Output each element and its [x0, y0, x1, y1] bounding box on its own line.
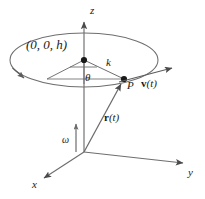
center-point-dot — [81, 57, 87, 63]
z-axis-label: z — [90, 5, 94, 16]
y-axis-line — [84, 152, 183, 163]
reference-radius-line — [47, 60, 84, 79]
x-axis-line — [44, 152, 84, 178]
point-p-label: P — [127, 80, 134, 91]
x-axis-label: x — [32, 179, 37, 190]
y-axis-label: y — [188, 167, 193, 178]
position-vector-label: r(t) — [104, 112, 119, 123]
center-point-label: (0, 0, h) — [26, 38, 67, 51]
velocity-vector-label: v(t) — [141, 78, 157, 89]
angle-theta-label: θ — [85, 72, 90, 83]
angular-velocity-label: ω — [62, 135, 69, 145]
radius-label: k — [106, 57, 111, 68]
circular-motion-diagram — [0, 0, 205, 199]
figure-container: (0, 0, h) k θ P v(t) r(t) ω z y x — [0, 0, 205, 199]
orbit-direction-arrow — [13, 68, 25, 78]
